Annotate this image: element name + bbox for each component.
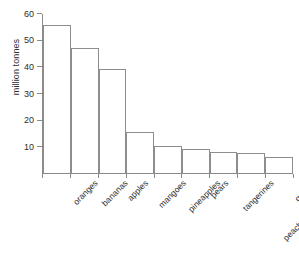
x-label-peaches-nectarines: peaches & nectarines — [281, 178, 299, 243]
y-tick-40: 40 — [37, 66, 42, 67]
x-label-text: peaches & nectarines — [281, 178, 299, 243]
bar-column — [210, 14, 238, 173]
x-label-grapes: grapes — [293, 178, 299, 203]
bar-column — [126, 14, 154, 173]
x-label-mangoes: mangoes — [156, 178, 188, 210]
y-tick-label: 30 — [24, 89, 34, 99]
bar-apples — [99, 69, 127, 173]
bar-mangoes — [126, 132, 154, 173]
x-label-text: tangerines — [241, 178, 276, 213]
y-tick-label: 50 — [24, 35, 34, 45]
bar-pineapples — [154, 146, 182, 173]
y-tick-10: 10 — [37, 146, 42, 147]
y-tick-60: 60 — [37, 13, 42, 14]
bar-column — [237, 14, 265, 173]
y-tick-label: 20 — [24, 115, 34, 125]
y-tick-label: 10 — [24, 142, 34, 152]
x-label-text: bananas — [100, 178, 130, 208]
bar-grapes — [265, 157, 293, 173]
bar-peaches-nectarines — [237, 153, 265, 173]
y-tick-label: 40 — [24, 62, 34, 72]
x-label-oranges: oranges — [71, 178, 100, 207]
x-label-text: mangoes — [156, 178, 188, 210]
bar-column — [43, 14, 71, 173]
x-label-text: apples — [125, 178, 150, 203]
y-axis-title: million tonnes — [11, 17, 21, 117]
x-label-bananas: bananas — [100, 178, 130, 208]
bar-column — [154, 14, 182, 173]
x-label-text: grapes — [293, 178, 299, 203]
bar-column — [99, 14, 127, 173]
bar-series — [43, 14, 293, 173]
bar-chart: million tonnes 102030405060 orangesbanan… — [0, 0, 299, 259]
bar-column — [71, 14, 99, 173]
x-tick — [293, 174, 294, 178]
plot-area: 102030405060 — [42, 14, 293, 174]
bar-pears — [182, 149, 210, 173]
y-tick-label: 60 — [24, 9, 34, 19]
bar-tangerines — [210, 152, 238, 173]
bar-column — [182, 14, 210, 173]
bar-column — [265, 14, 293, 173]
x-label-tangerines: tangerines — [241, 178, 276, 213]
x-label-apples: apples — [125, 178, 150, 203]
y-tick-20: 20 — [37, 120, 42, 121]
x-axis-labels: orangesbananasapplesmangoespineapplespea… — [42, 178, 293, 258]
y-tick-30: 30 — [37, 93, 42, 94]
bar-bananas — [71, 48, 99, 173]
bar-oranges — [43, 25, 71, 173]
y-tick-50: 50 — [37, 40, 42, 41]
x-label-text: oranges — [71, 178, 100, 207]
